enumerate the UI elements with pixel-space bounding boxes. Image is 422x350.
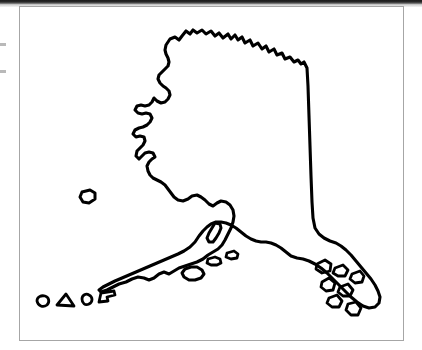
panhandle-island-6-path [327, 295, 342, 307]
aleutian-island-round-path [82, 294, 92, 304]
alaska-map-svg [19, 6, 404, 341]
southwest-island-small-path [226, 251, 238, 259]
kodiak-island-path [182, 267, 204, 280]
nunivak-island-path [80, 190, 95, 203]
panhandle-island-7-path [346, 302, 361, 315]
alaska-map [19, 6, 404, 341]
afognak-island-path [207, 257, 221, 265]
margin-tick-upper [0, 43, 6, 46]
margin-tick-lower [0, 70, 6, 73]
panhandle-island-4-path [321, 278, 335, 291]
aleutian-island-wedge-path [99, 291, 115, 302]
aleutian-island-oval-path [37, 296, 49, 307]
aleutian-island-triangle-path [57, 294, 74, 306]
scanned-page [0, 0, 422, 350]
panhandle-island-3-path [350, 271, 364, 283]
panhandle-island-2-path [333, 265, 348, 276]
